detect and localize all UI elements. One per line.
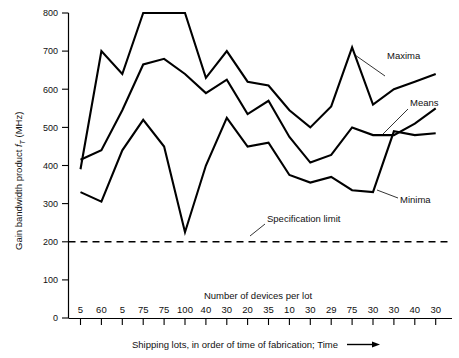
x-tick-label: 29 [326, 304, 337, 315]
y-tick-label: 100 [43, 275, 58, 285]
annotation-maxima-label: Maxima [387, 50, 421, 61]
x-tick-label: 30 [430, 304, 441, 315]
x-tick-label: 20 [242, 304, 253, 315]
y-axis-title: Gain bandwidth product fT (MHz) [13, 112, 26, 250]
svg-text:Gain bandwidth product fT (MHz: Gain bandwidth product fT (MHz) [13, 112, 26, 250]
x-tick-label: 30 [222, 304, 233, 315]
y-tick-label: 600 [43, 85, 58, 95]
chart-figure: 800 700 600 500 400 300 200 100 0 Gain b… [0, 0, 459, 358]
x-axis-caption-text: Shipping lots, in order of time of fabri… [132, 339, 338, 350]
y-tick-label: 0 [53, 313, 58, 323]
x-tick-label: 5 [120, 304, 125, 315]
y-tick-label: 500 [43, 123, 58, 133]
x-tick-label: 10 [284, 304, 295, 315]
x-tick-label: 75 [159, 304, 170, 315]
chart-svg: 800 700 600 500 400 300 200 100 0 Gain b… [0, 0, 459, 358]
x-tick-label: 60 [96, 304, 107, 315]
x-tick-label: 30 [368, 304, 379, 315]
y-tick-label: 700 [43, 46, 58, 56]
annotation-means-label: Means [410, 97, 439, 108]
x-tick-label: 75 [138, 304, 149, 315]
x-tick-label: 35 [263, 304, 274, 315]
y-tick-label: 200 [43, 237, 58, 247]
y-axis-title-unit: (MHz) [13, 112, 24, 141]
y-tick-label: 800 [43, 8, 58, 18]
annotation-minima-label: Minima [400, 194, 431, 205]
x-tick-label: 30 [305, 304, 316, 315]
x-tick-label: 40 [201, 304, 212, 315]
x-axis-group-label: Number of devices per lot [204, 290, 313, 301]
y-tick-label: 400 [43, 161, 58, 171]
y-tick-label: 300 [43, 199, 58, 209]
x-tick-label: 100 [177, 304, 193, 315]
x-tick-label: 40 [410, 304, 421, 315]
specification-limit-label: Specification limit [267, 213, 341, 224]
x-tick-label: 30 [389, 304, 400, 315]
x-tick-label: 5 [78, 304, 83, 315]
y-axis-title-text: Gain bandwidth product [13, 147, 24, 250]
y-axis-tick-labels: 800 700 600 500 400 300 200 100 0 [43, 8, 58, 323]
x-tick-label: 75 [347, 304, 358, 315]
